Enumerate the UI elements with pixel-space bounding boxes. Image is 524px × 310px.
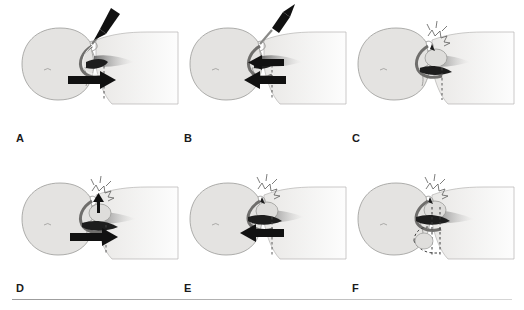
torso-shape [96,32,178,104]
head-profile [358,28,430,100]
panel-c [344,0,514,128]
torso-shape [432,32,514,104]
inflated-cuff [425,49,447,67]
panel-f [344,155,514,283]
panel-label-d: D [16,283,24,294]
panel-d-artwork [8,155,178,283]
panel-label-a: A [16,133,24,144]
panel-label-e: E [184,283,192,294]
bottom-rule-divider [12,299,512,300]
panel-d [8,155,178,283]
panel-f-artwork [344,155,514,283]
panel-e [176,155,346,283]
figure-container: A B C D E F [0,0,524,310]
panel-c-artwork [344,0,514,128]
torso-shape [264,32,346,104]
panel-label-b: B [184,133,192,144]
panel-label-c: C [352,133,360,144]
panel-a [8,0,178,128]
panel-a-artwork [8,0,178,128]
panel-label-f: F [352,283,359,294]
syringe-withdrawal-arrow [272,4,295,33]
panel-b [176,0,346,128]
displaced-structure [415,233,433,249]
panel-e-artwork [176,155,346,283]
head-profile [22,183,94,255]
panel-b-artwork [176,0,346,128]
